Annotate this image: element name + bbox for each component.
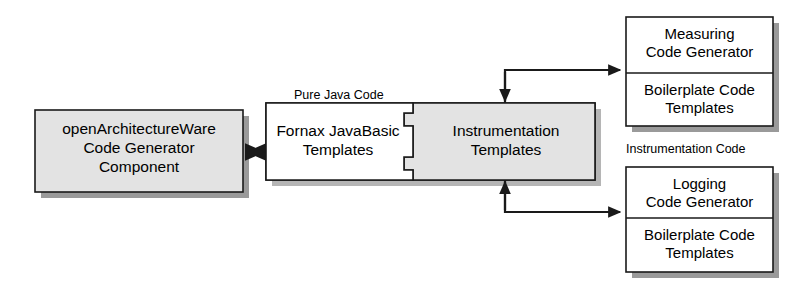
- diagram-canvas: [0, 0, 806, 287]
- fornax-templates-piece: [266, 103, 413, 180]
- oaw-component-box: [35, 110, 243, 192]
- architecture-diagram: openArchitectureWare Code Generator Comp…: [0, 0, 806, 287]
- measuring-generator-box: [626, 17, 773, 126]
- measuring-connector-up-leg: [505, 70, 620, 103]
- logging-generator-box: [626, 167, 773, 272]
- instrumentation-templates-piece: [404, 103, 595, 180]
